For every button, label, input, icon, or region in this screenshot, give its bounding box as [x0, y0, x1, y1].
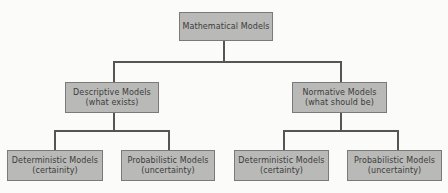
connector-to-desc-probabilistic	[168, 130, 170, 150]
node-subtitle: (uncertainty)	[141, 166, 195, 176]
node-title: Deterministic Models	[238, 156, 324, 166]
node-subtitle: (uncertainty)	[368, 166, 422, 176]
node-title: Probabilistic Models	[354, 156, 435, 166]
node-title: Deterministic Models	[12, 156, 98, 166]
node-descriptive-models: Descriptive Models (what exists)	[65, 82, 159, 113]
node-normative-deterministic: Deterministic Models (certainty)	[234, 150, 329, 181]
node-title: Mathematical Models	[182, 22, 269, 32]
node-title: Descriptive Models	[73, 88, 151, 98]
node-title: Normative Models	[302, 88, 376, 98]
connector-to-norm-probabilistic	[397, 130, 399, 150]
connector-descriptive-down	[113, 112, 115, 132]
node-normative-models: Normative Models (what should be)	[292, 82, 387, 113]
node-mathematical-models: Mathematical Models	[179, 12, 273, 41]
connector-level1-bar	[113, 61, 342, 63]
connector-to-desc-deterministic	[54, 130, 56, 150]
node-descriptive-deterministic: Deterministic Models (certainity)	[7, 150, 103, 181]
connector-descriptive-bar	[54, 130, 170, 132]
node-subtitle: (certainty)	[260, 166, 303, 176]
node-subtitle: (certainity)	[32, 166, 77, 176]
connector-normative-down	[340, 112, 342, 132]
node-subtitle: (what should be)	[305, 98, 374, 108]
connector-to-normative	[340, 61, 342, 82]
connector-normative-bar	[283, 130, 399, 132]
node-subtitle: (what exists)	[86, 98, 139, 108]
node-descriptive-probabilistic: Probabilistic Models (uncertainty)	[121, 150, 215, 181]
connector-to-norm-deterministic	[283, 130, 285, 150]
connector-root-down	[223, 40, 225, 63]
model-hierarchy-diagram: Mathematical Models Descriptive Models (…	[0, 0, 448, 193]
node-normative-probabilistic: Probabilistic Models (uncertainty)	[347, 150, 442, 181]
node-title: Probabilistic Models	[127, 156, 208, 166]
connector-to-descriptive	[113, 61, 115, 82]
